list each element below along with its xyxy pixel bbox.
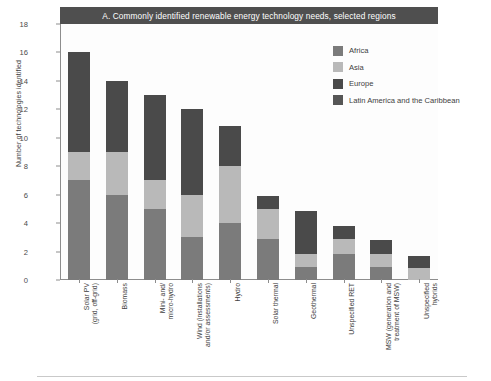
x-axis-label: Hydro — [234, 283, 242, 375]
bar-segment — [333, 239, 355, 254]
legend-label: Latin America and the Caribbean — [349, 96, 460, 105]
chart-title-banner: A. Commonly identified renewable energy … — [60, 7, 438, 24]
bar-stack[interactable] — [257, 196, 279, 280]
bar-segment — [219, 166, 241, 223]
bar-stack[interactable] — [181, 109, 203, 280]
legend-swatch — [333, 62, 343, 72]
bar-stack[interactable] — [333, 226, 355, 280]
legend-label: Africa — [349, 46, 368, 55]
x-axis-label: Wind (installations and/or assessments) — [196, 283, 213, 375]
chart-page: A. Commonly identified renewable energy … — [0, 0, 491, 381]
bar-stack[interactable] — [68, 52, 90, 280]
chart-title: A. Commonly identified renewable energy … — [102, 11, 395, 21]
legend-item[interactable]: Latin America and the Caribbean — [333, 94, 483, 107]
bar-segment — [181, 195, 203, 238]
x-axis-label: Solar thermal — [272, 283, 280, 375]
x-axis-label: Mini- and/ micro-hydro — [159, 283, 176, 375]
y-axis-tick-label: 10 — [0, 133, 28, 142]
y-axis-tick-label: 4 — [0, 219, 28, 228]
x-axis-label: MSW (generation and treatment of MSW) — [385, 283, 402, 375]
y-axis-tick-label: 16 — [0, 48, 28, 57]
bar-segment — [181, 237, 203, 280]
bar-segment — [144, 95, 166, 180]
bar-segment — [106, 195, 128, 280]
bar-stack[interactable] — [144, 95, 166, 280]
bar-stack[interactable] — [370, 240, 392, 280]
bar-segment — [257, 209, 279, 239]
bar-stack[interactable] — [106, 81, 128, 280]
bar-segment — [333, 254, 355, 280]
x-axis-label: Unspecified RET — [348, 283, 356, 375]
bar-segment — [68, 52, 90, 152]
y-axis-tick-label: 2 — [0, 247, 28, 256]
y-axis-tick-label: 18 — [0, 20, 28, 29]
legend-swatch — [333, 79, 343, 89]
bar-segment — [257, 239, 279, 280]
x-axis-label: Solar PV (grid, off-grid) — [83, 283, 100, 375]
x-axis-label: Biomass — [121, 283, 129, 375]
y-axis-tick-label: 0 — [0, 276, 28, 285]
bar-stack[interactable] — [219, 126, 241, 280]
legend-swatch — [333, 95, 343, 105]
chart-legend: AfricaAsiaEuropeLatin America and the Ca… — [333, 44, 483, 110]
footer-divider — [37, 376, 467, 377]
bar-segment — [408, 256, 430, 268]
bar-segment — [257, 196, 279, 209]
x-axis-labels: Solar PV (grid, off-grid)BiomassMini- an… — [60, 283, 438, 377]
bar-segment — [370, 254, 392, 268]
bar-stack[interactable] — [408, 256, 430, 280]
legend-swatch — [333, 46, 343, 56]
bar-segment — [181, 109, 203, 194]
bar-segment — [219, 223, 241, 280]
y-axis-tick-label: 8 — [0, 162, 28, 171]
bar-segment — [295, 211, 317, 254]
bar-segment — [370, 240, 392, 254]
bar-segment — [106, 152, 128, 195]
bar-segment — [68, 152, 90, 180]
y-axis-tick-label: 14 — [0, 76, 28, 85]
bar-stack[interactable] — [295, 211, 317, 280]
bar-segment — [219, 126, 241, 166]
bar-segment — [68, 180, 90, 280]
bar-segment — [144, 209, 166, 280]
y-axis-tick-label: 6 — [0, 190, 28, 199]
x-axis-label: Unspecified hybrids — [423, 283, 440, 375]
y-axis-tick-label: 12 — [0, 105, 28, 114]
bar-segment — [144, 180, 166, 208]
legend-item[interactable]: Asia — [333, 61, 483, 74]
bar-segment — [106, 81, 128, 152]
legend-item[interactable]: Africa — [333, 44, 483, 57]
x-axis-label: Geothermal — [310, 283, 318, 375]
bar-segment — [333, 226, 355, 240]
legend-label: Asia — [349, 63, 364, 72]
legend-label: Europe — [349, 79, 374, 88]
bar-segment — [295, 254, 317, 267]
legend-item[interactable]: Europe — [333, 77, 483, 90]
